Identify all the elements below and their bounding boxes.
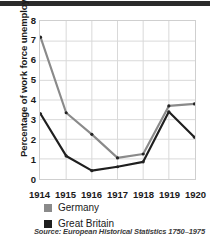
legend-label: Germany [58, 201, 99, 215]
data-point-germany-1915 [65, 111, 68, 114]
top-rule-divider [0, 1, 210, 6]
y-axis-tick-labels: 012345678 [22, 14, 36, 186]
y-axis-tick-8: 8 [22, 15, 36, 27]
data-point-great-britain-1919 [167, 110, 170, 113]
series-line-germany [40, 37, 194, 158]
data-point-germany-1919 [167, 104, 170, 107]
y-axis-tick-0: 0 [22, 174, 36, 186]
legend-item-germany: Germany [44, 201, 194, 215]
data-series-layer [40, 21, 195, 179]
y-axis-tick-6: 6 [22, 54, 36, 66]
x-axis-tick-1920: 1920 [181, 189, 211, 201]
source-caption: Source: European Historical Statistics 1… [34, 227, 205, 236]
y-axis-tick-2: 2 [22, 134, 36, 146]
data-point-germany-1918 [142, 152, 145, 155]
plot-block: Percentage of work force unemployed 0123… [0, 14, 210, 186]
data-point-great-britain-1916 [90, 169, 93, 172]
x-axis-tick-labels: 1914191519161917191819191920 [39, 189, 196, 201]
y-axis-tick-4: 4 [22, 94, 36, 106]
y-axis-tick-1: 1 [22, 154, 36, 166]
y-axis-tick-5: 5 [22, 74, 36, 86]
y-axis-tick-3: 3 [22, 114, 36, 126]
data-point-germany-1917 [116, 156, 119, 159]
series-line-great-britain [40, 112, 194, 171]
data-point-great-britain-1918 [142, 160, 145, 163]
data-point-germany-1916 [90, 133, 93, 136]
data-point-great-britain-1915 [65, 154, 68, 157]
plot-area [39, 20, 196, 180]
chart-figure: Percentage of work force unemployed 0123… [0, 0, 210, 241]
data-point-great-britain-1917 [116, 165, 119, 168]
y-axis-tick-7: 7 [22, 34, 36, 46]
legend-swatch-germany [44, 204, 52, 212]
